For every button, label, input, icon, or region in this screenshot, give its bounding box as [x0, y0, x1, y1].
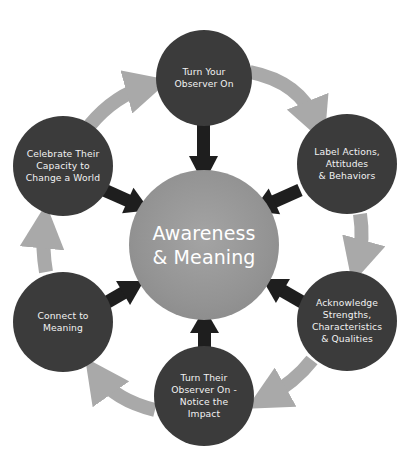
node-label: Turn Your Observer On [174, 66, 233, 90]
cycle-arrow-lower-left-to-upper-left [43, 226, 46, 272]
node-turn-your-observer-on: Turn Your Observer On [156, 30, 252, 126]
node-label: Connect to Meaning [37, 310, 88, 334]
node-label: Label Actions, Attitudes & Behaviors [314, 146, 380, 182]
center-node-awareness-meaning: Awareness & Meaning [129, 170, 279, 320]
cycle-arrow-upper-left-to-top [90, 86, 148, 125]
cycle-arrow-lower-right-to-bottom [266, 360, 312, 398]
cycle-arrow-upper-right-to-lower-right [358, 214, 362, 262]
cycle-arrow-bottom-to-lower-left [98, 376, 155, 410]
node-celebrate-their-capacity: Celebrate Their Capacity to Change a Wor… [13, 116, 113, 216]
node-acknowledge-strengths: Acknowledge Strengths, Characteristics &… [297, 271, 397, 371]
cycle-diagram: Awareness & Meaning Turn Your Observer O… [0, 0, 409, 464]
node-label: Acknowledge Strengths, Characteristics &… [312, 297, 382, 345]
node-label-actions: Label Actions, Attitudes & Behaviors [297, 114, 397, 214]
node-turn-their-observer-on: Turn Their Observer On - Notice the Impa… [154, 346, 254, 446]
cycle-arrow-top-to-upper-right [250, 72, 316, 122]
node-connect-to-meaning: Connect to Meaning [13, 272, 113, 372]
node-label: Celebrate Their Capacity to Change a Wor… [26, 148, 100, 184]
node-label: Turn Their Observer On - Notice the Impa… [171, 372, 237, 420]
center-node-label: Awareness & Meaning [153, 221, 256, 269]
